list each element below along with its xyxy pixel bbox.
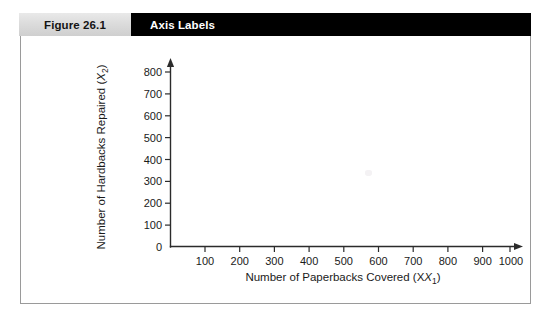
figure-title-label: Axis Labels [150,19,215,31]
figure-title-cell: Axis Labels [131,13,531,36]
scan-artifact [365,170,372,176]
figure-panel: Figure 26.1 Axis Labels [0,0,550,317]
figure-content-frame [20,36,531,304]
figure-number-cell: Figure 26.1 [19,13,131,36]
figure-number-label: Figure 26.1 [44,19,106,31]
figure-header: Figure 26.1 Axis Labels [19,13,531,36]
